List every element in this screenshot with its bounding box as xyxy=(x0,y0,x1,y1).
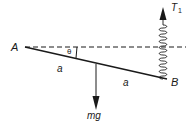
diagram-graphics xyxy=(0,0,194,128)
angle-marker xyxy=(76,47,77,58)
rod-spring-diagram: A θ a a B mg T1 xyxy=(0,0,194,128)
weight-arrow-head-icon xyxy=(93,96,100,110)
label-tension-subscript: 1 xyxy=(178,7,182,14)
label-half-length-right: a xyxy=(123,78,129,88)
label-tension-symbol: T xyxy=(171,2,177,13)
spring xyxy=(159,20,167,79)
label-tension: T1 xyxy=(171,3,182,14)
tension-arrow-head-icon xyxy=(160,7,167,20)
label-angle-theta: θ xyxy=(67,48,71,56)
label-point-a: A xyxy=(11,42,18,53)
label-point-b: B xyxy=(171,77,178,88)
label-half-length-left: a xyxy=(57,64,63,74)
label-weight-mg: mg xyxy=(87,111,101,121)
